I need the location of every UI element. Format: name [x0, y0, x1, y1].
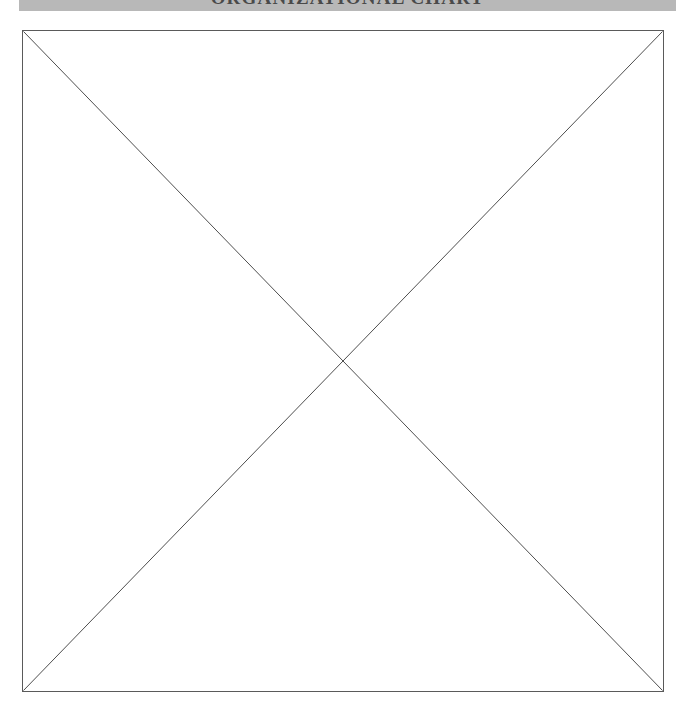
placeholder-cross-icon	[23, 31, 663, 691]
page-title: ORGANIZATIONAL CHART	[19, 0, 676, 8]
missing-image-placeholder	[22, 30, 664, 692]
header-banner: ORGANIZATIONAL CHART	[19, 0, 676, 11]
